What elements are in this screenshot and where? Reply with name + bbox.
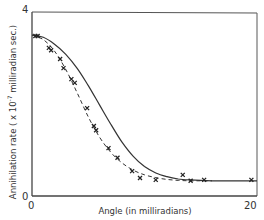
x-marker: [94, 128, 98, 132]
x-marker: [62, 66, 66, 70]
x-marker: [85, 106, 89, 110]
data-points: [33, 34, 253, 183]
y-axis-label: Annihilation rate ( x 10-7 milliradian s…: [6, 25, 18, 199]
x-marker: [58, 57, 62, 61]
y-tick-4: 4: [22, 4, 28, 15]
x-marker: [138, 176, 142, 180]
x-axis-label: Angle (in milliradians): [98, 206, 191, 216]
solid-curve: [32, 35, 257, 181]
x-marker: [49, 48, 53, 52]
x-marker: [69, 77, 73, 81]
x-tick-20: 20: [244, 200, 257, 211]
plot-frame: [32, 12, 257, 196]
x-tick-0: 0: [28, 200, 34, 211]
x-marker: [154, 178, 158, 182]
x-marker: [181, 173, 185, 177]
x-marker: [130, 169, 134, 173]
x-marker: [73, 81, 77, 85]
chart: 0 4 0 20 Angle (in milliradians) Annihil…: [0, 0, 264, 220]
